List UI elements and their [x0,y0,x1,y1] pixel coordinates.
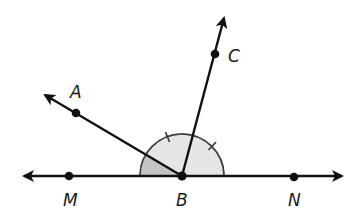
point-b [177,171,186,180]
label-b: B [176,190,188,210]
point-c [211,50,220,59]
geometry-diagram: M B N A C [0,0,358,217]
label-c: C [228,46,240,66]
label-m: M [63,190,78,210]
point-m [65,172,74,181]
label-n: N [288,190,301,210]
point-a [72,109,81,118]
point-n [290,173,299,182]
angle-arcs [140,132,224,176]
label-a: A [69,82,82,102]
ray-ba [45,95,182,176]
